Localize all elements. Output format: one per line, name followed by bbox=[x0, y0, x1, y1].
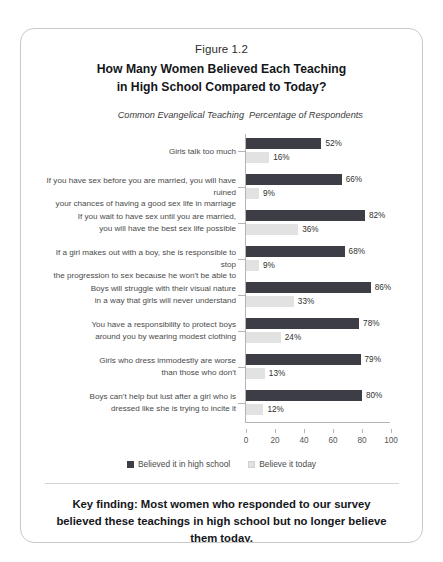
chart-row-label: Boys will struggle with their visual nat… bbox=[40, 283, 236, 306]
chart-row-label-line: the progression to sex because he won't … bbox=[40, 270, 236, 281]
bar-then bbox=[246, 210, 365, 221]
legend-item-then: Believed it in high school bbox=[127, 459, 230, 469]
bar-value-now: 9% bbox=[263, 188, 275, 199]
chart-row-bars: 66%9% bbox=[246, 174, 396, 200]
y-axis-tick-mark bbox=[238, 223, 245, 224]
bar-value-now: 33% bbox=[298, 296, 314, 307]
bar-now bbox=[246, 152, 269, 163]
chart-row-label: Girls who dress immodestly are worsethan… bbox=[40, 355, 236, 378]
y-axis-tick-mark bbox=[238, 259, 245, 260]
chart-row-label-line: than those who don't bbox=[40, 367, 236, 378]
chart-row: If you wait to have sex until you are ma… bbox=[21, 210, 422, 246]
chart-row-label-line: Girls talk too much bbox=[40, 146, 236, 157]
y-axis-tick-mark bbox=[238, 151, 245, 152]
chart-row: If you have sex before you are married, … bbox=[21, 174, 422, 210]
bar-then bbox=[246, 138, 321, 149]
bar-value-then: 66% bbox=[346, 174, 362, 185]
figure-number: Figure 1.2 bbox=[21, 43, 422, 55]
bar-then bbox=[246, 174, 342, 185]
bar-group-then: 82% bbox=[246, 210, 396, 222]
chart-row-bars: 79%13% bbox=[246, 354, 396, 380]
chart-row-label-line: around you by wearing modest clothing bbox=[40, 331, 236, 342]
bar-then bbox=[246, 354, 361, 365]
bar-value-now: 12% bbox=[267, 404, 283, 415]
chart-row-label-line: in a way that girls will never understan… bbox=[40, 295, 236, 306]
bar-value-then: 80% bbox=[366, 390, 382, 401]
bar-now bbox=[246, 296, 294, 307]
chart-row-label: If you wait to have sex until you are ma… bbox=[40, 211, 236, 234]
y-axis-tick-mark bbox=[238, 403, 245, 404]
x-axis-tick-label: 0 bbox=[244, 436, 249, 445]
bar-now bbox=[246, 224, 298, 235]
column-header-teaching: Common Evangelical Teaching bbox=[118, 110, 244, 120]
chart-row-bars: 68%9% bbox=[246, 246, 396, 272]
chart-row: Boys will struggle with their visual nat… bbox=[21, 282, 422, 318]
bar-value-then: 52% bbox=[325, 138, 341, 149]
bar-now bbox=[246, 260, 259, 271]
column-header-percentage: Percentage of Respondents bbox=[249, 110, 363, 120]
key-finding-text: Key finding: Most women who responded to… bbox=[21, 496, 422, 543]
figure-title-line-2: in High School Compared to Today? bbox=[39, 79, 404, 97]
bar-value-then: 78% bbox=[363, 318, 379, 329]
chart-row-label: Girls talk too much bbox=[40, 146, 236, 157]
bar-value-now: 9% bbox=[263, 260, 275, 271]
x-axis-tick-mark bbox=[362, 429, 363, 433]
bar-value-now: 13% bbox=[269, 368, 285, 379]
bar-group-then: 68% bbox=[246, 246, 396, 258]
bar-group-now: 36% bbox=[246, 224, 396, 236]
x-axis-tick-mark bbox=[391, 429, 392, 433]
x-axis-tick-mark bbox=[246, 429, 247, 433]
x-axis-tick-mark bbox=[275, 429, 276, 433]
chart-row-label: If a girl makes out with a boy, she is r… bbox=[40, 247, 236, 281]
bar-group-now: 9% bbox=[246, 260, 396, 272]
bar-then bbox=[246, 282, 371, 293]
bar-group-now: 13% bbox=[246, 368, 396, 380]
chart-row: Girls who dress immodestly are worsethan… bbox=[21, 354, 422, 390]
legend-swatch-now-icon bbox=[248, 461, 255, 468]
bar-group-then: 78% bbox=[246, 318, 396, 330]
chart-row: If a girl makes out with a boy, she is r… bbox=[21, 246, 422, 282]
chart-plot-area: Girls talk too much52%16%If you have sex… bbox=[21, 134, 422, 432]
legend-label-then: Believed it in high school bbox=[138, 459, 230, 469]
y-axis-tick-mark bbox=[238, 187, 245, 188]
chart-row-label-line: Boys will struggle with their visual nat… bbox=[40, 283, 236, 294]
x-axis-tick-mark bbox=[333, 429, 334, 433]
bar-now bbox=[246, 188, 259, 199]
chart-row-label-line: If a girl makes out with a boy, she is r… bbox=[40, 247, 236, 270]
bar-group-now: 16% bbox=[246, 152, 396, 164]
bar-group-now: 33% bbox=[246, 296, 396, 308]
bar-value-now: 16% bbox=[273, 152, 289, 163]
figure-title-line-1: How Many Women Believed Each Teaching bbox=[39, 61, 404, 79]
x-axis-tick-label: 100 bbox=[384, 436, 398, 445]
bar-value-now: 24% bbox=[285, 332, 301, 343]
chart-row-label-line: your chances of having a good sex life i… bbox=[40, 198, 236, 209]
chart-row-label: Boys can't help but lust after a girl wh… bbox=[40, 391, 236, 414]
bar-now bbox=[246, 368, 265, 379]
legend-item-now: Believe it today bbox=[248, 459, 316, 469]
bar-group-then: 79% bbox=[246, 354, 396, 366]
x-axis-tick-label: 60 bbox=[328, 436, 337, 445]
legend-label-now: Believe it today bbox=[259, 459, 316, 469]
figure-title: How Many Women Believed Each Teaching in… bbox=[21, 61, 422, 96]
column-headers: Common Evangelical Teaching Percentage o… bbox=[21, 110, 422, 132]
chart-row-label-line: you will have the best sex life possible bbox=[40, 223, 236, 234]
chart-row-label: You have a responsibility to protect boy… bbox=[40, 319, 236, 342]
x-axis-ticks: 020406080100 bbox=[21, 433, 422, 449]
bar-now bbox=[246, 404, 263, 415]
chart-row-bars: 52%16% bbox=[246, 138, 396, 164]
chart-row: You have a responsibility to protect boy… bbox=[21, 318, 422, 354]
bar-value-then: 68% bbox=[349, 246, 365, 257]
chart-legend: Believed it in high school Believe it to… bbox=[21, 459, 422, 469]
footer-divider bbox=[45, 483, 399, 484]
bar-group-then: 52% bbox=[246, 138, 396, 150]
chart-row: Girls talk too much52%16% bbox=[21, 138, 422, 174]
y-axis-tick-mark bbox=[238, 331, 245, 332]
y-axis-tick-mark bbox=[238, 367, 245, 368]
bar-group-then: 80% bbox=[246, 390, 396, 402]
x-axis-tick-label: 80 bbox=[357, 436, 366, 445]
chart-row-label: If you have sex before you are married, … bbox=[40, 175, 236, 209]
chart-row-bars: 78%24% bbox=[246, 318, 396, 344]
bar-group-then: 66% bbox=[246, 174, 396, 186]
chart-row-bars: 80%12% bbox=[246, 390, 396, 416]
chart-row-label-line: If you have sex before you are married, … bbox=[40, 175, 236, 198]
